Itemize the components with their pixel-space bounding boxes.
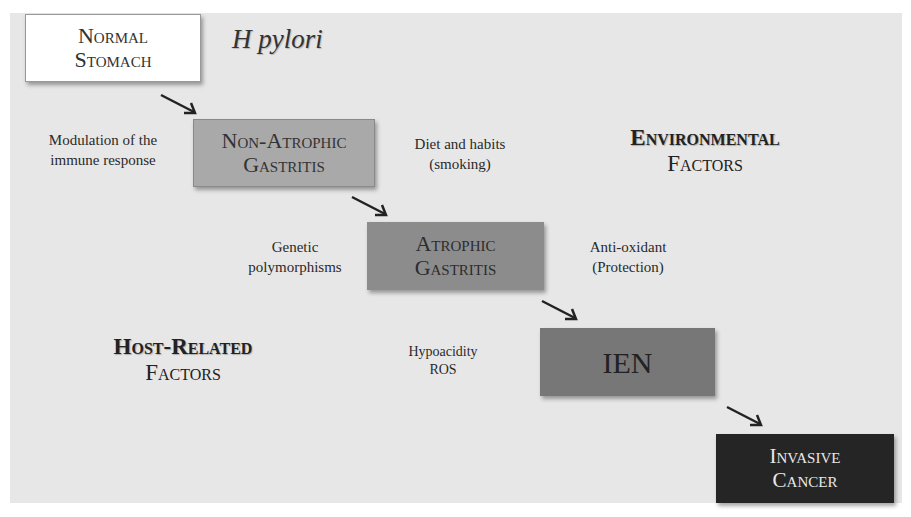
annotation-line: ROS [393,361,493,379]
annotation-line: (Protection) [568,258,688,278]
h-pylori-label: H pylori [232,24,323,55]
annotation-immune-response: Modulation of the immune response [28,131,178,170]
stage-label: Invasive [770,445,841,468]
host-related-factors-label: Host-Related Factors [68,334,298,387]
stage-label: IEN [603,346,653,379]
annotation-antioxidant: Anti-oxidant (Protection) [568,238,688,277]
factor-subheading: Factors [68,360,298,386]
annotation-line: Hypoacidity [393,343,493,361]
annotation-line: immune response [28,151,178,171]
environmental-factors-label: Environmental Factors [590,125,820,178]
annotation-line: Anti-oxidant [568,238,688,258]
stage-atrophic-gastritis: Atrophic Gastritis [367,222,544,290]
annotation-diet-habits: Diet and habits (smoking) [395,135,525,174]
arrow-icon [158,92,200,116]
factor-subheading: Factors [590,151,820,177]
annotation-line: (smoking) [395,155,525,175]
stage-label: Stomach [75,48,152,72]
stage-label: Non-Atrophic [222,129,347,153]
stage-label: Normal [78,24,148,48]
stage-label: Gastritis [415,256,497,280]
arrow-icon [349,194,391,218]
arrow-icon [539,298,581,322]
annotation-line: Diet and habits [395,135,525,155]
stage-label: Cancer [773,469,838,492]
annotation-hypoacidity-ros: Hypoacidity ROS [393,343,493,379]
annotation-line: Genetic [230,238,360,258]
annotation-line: polymorphisms [230,258,360,278]
annotation-line: Modulation of the [28,131,178,151]
factor-heading: Host-Related [68,334,298,360]
stage-normal-stomach: Normal Stomach [25,14,201,82]
stage-invasive-cancer: Invasive Cancer [716,434,894,503]
stage-non-atrophic-gastritis: Non-Atrophic Gastritis [193,119,375,187]
stage-label: Atrophic [415,232,495,256]
factor-heading: Environmental [590,125,820,151]
arrow-icon [724,404,766,428]
stage-label: Gastritis [243,153,325,177]
stage-ien: IEN [540,328,715,396]
annotation-genetic-polymorphisms: Genetic polymorphisms [230,238,360,277]
